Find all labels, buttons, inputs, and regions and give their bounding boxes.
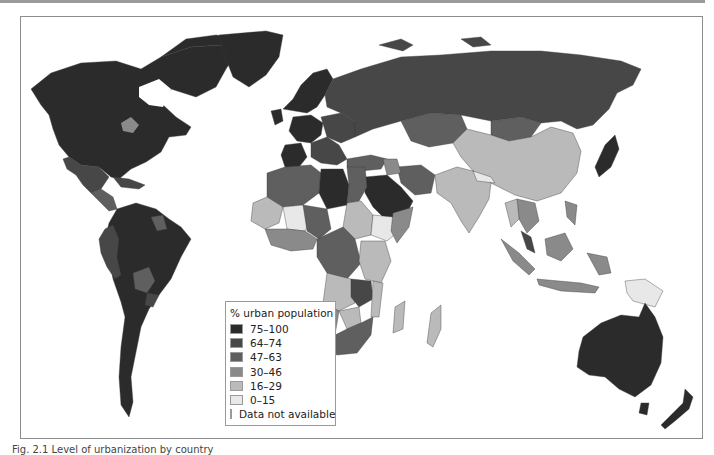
- legend-label: 75–100: [250, 323, 289, 335]
- legend-swatch: [230, 409, 232, 419]
- legend-swatch: [230, 338, 243, 348]
- legend-title: % urban population: [230, 306, 335, 320]
- legend-item: 0–15: [230, 393, 335, 407]
- region-north-america: [31, 31, 283, 211]
- region-south-america: [99, 203, 191, 417]
- legend-swatch: [230, 367, 243, 377]
- top-rule: [0, 0, 705, 3]
- legend-swatch: [230, 352, 243, 362]
- region-madagascar: [427, 305, 441, 347]
- legend-item: 64–74: [230, 336, 335, 350]
- legend-label: 64–74: [250, 337, 282, 349]
- legend-item: 30–46: [230, 365, 335, 379]
- region-russia: [325, 37, 641, 137]
- map-legend: % urban population 75–100 64–74 47–63 30…: [225, 301, 336, 426]
- legend-label: 16–29: [250, 380, 282, 392]
- legend-item: Data not available: [230, 407, 335, 421]
- map-frame: % urban population 75–100 64–74 47–63 30…: [20, 16, 703, 439]
- legend-label: 47–63: [250, 351, 282, 363]
- region-east-south-asia: [435, 127, 619, 233]
- legend-item: 47–63: [230, 350, 335, 364]
- legend-label: Data not available: [239, 408, 335, 420]
- world-map: [21, 17, 702, 438]
- legend-label: 30–46: [250, 366, 282, 378]
- region-oceania: [577, 303, 693, 429]
- legend-swatch: [230, 324, 243, 334]
- legend-label: 0–15: [250, 394, 275, 406]
- legend-swatch: [230, 395, 243, 405]
- legend-swatch: [230, 381, 243, 391]
- legend-item: 16–29: [230, 379, 335, 393]
- figure-caption: Fig. 2.1 Level of urbanization by countr…: [12, 444, 213, 455]
- legend-item: 75–100: [230, 322, 335, 336]
